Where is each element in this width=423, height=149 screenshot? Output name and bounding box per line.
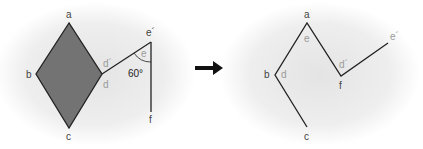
label-d: d	[103, 79, 109, 90]
label-a: a	[66, 9, 72, 20]
label-angle-60: 60°	[128, 68, 143, 79]
label-e-prime: e´	[390, 31, 399, 42]
diagram-canvas: a b c d´ d e´ e 60° f a e b d d´ f e´ c	[0, 0, 423, 149]
label-d-prime: d´	[103, 58, 112, 69]
label-f: f	[339, 80, 342, 91]
label-d: d	[281, 69, 287, 80]
label-e-prime: e´	[146, 27, 155, 38]
label-a: a	[304, 9, 310, 20]
label-e: e	[304, 33, 310, 44]
label-c: c	[66, 131, 71, 142]
label-f: f	[149, 114, 152, 125]
label-d-prime: d´	[339, 59, 348, 70]
label-b: b	[264, 69, 270, 80]
right-arrow-icon	[195, 61, 223, 75]
label-b: b	[26, 69, 32, 80]
right-halo	[220, 2, 420, 146]
label-e: e	[141, 48, 147, 59]
label-c: c	[304, 131, 309, 142]
